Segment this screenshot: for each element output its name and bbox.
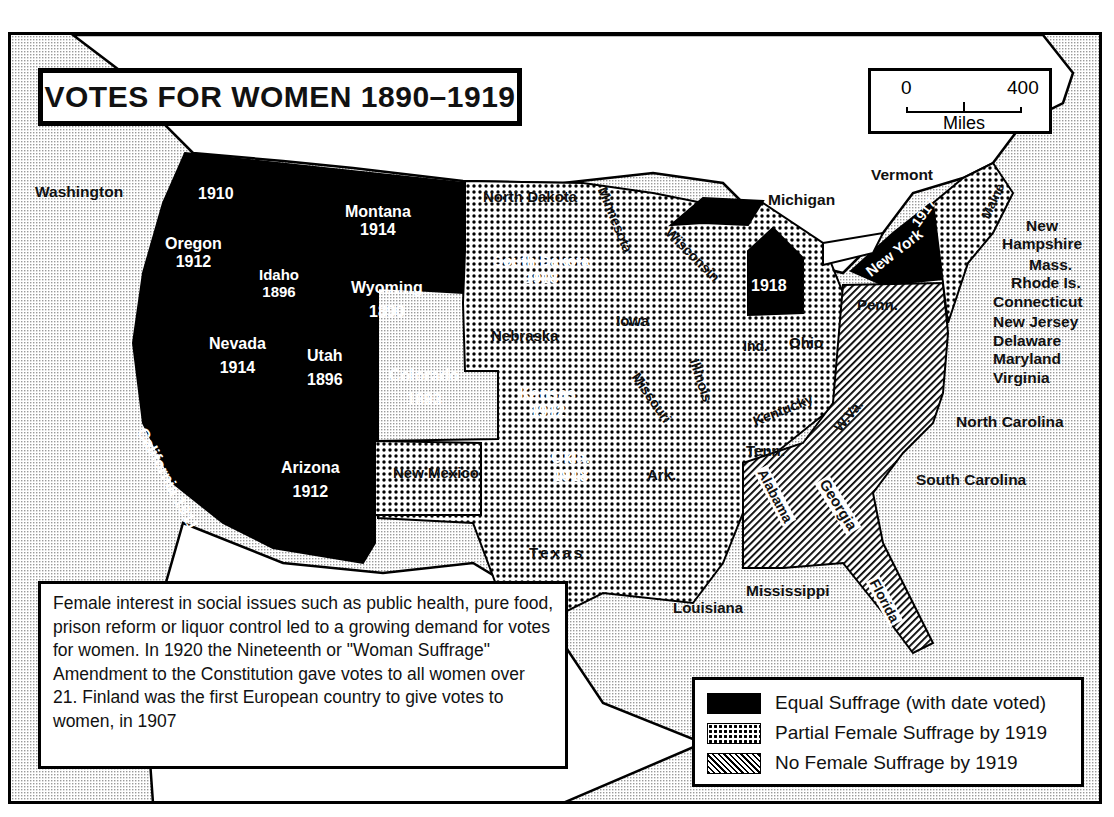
label-mississippi: Mississippi [746, 582, 830, 600]
label-colorado: Colorado1893 [389, 367, 459, 408]
label-virginia: Virginia [993, 369, 1050, 387]
label-massachusetts: Mass. [1029, 256, 1072, 274]
label-texas: Texas [529, 545, 585, 562]
scale-start: 0 [901, 77, 912, 99]
label-north-carolina: North Carolina [956, 413, 1064, 431]
label-arkansas: Ark. [647, 467, 676, 484]
label-wyoming: Wyoming1890 [351, 279, 423, 320]
solid-black-swatch-icon [707, 693, 761, 714]
legend-label: Equal Suffrage (with date voted) [775, 692, 1046, 714]
label-kansas: Kansas1912 [519, 385, 576, 420]
label-new-jersey: New Jersey [993, 313, 1078, 331]
label-ohio: Ohio [789, 335, 823, 352]
label-rhode-island: Rhode Is. [1011, 274, 1081, 292]
label-michigan-year: 1918 [751, 277, 787, 295]
label-nebraska: Nebraska [491, 328, 559, 345]
label-tennessee: Tenn. [746, 443, 785, 460]
label-washington: Washington [35, 183, 123, 201]
scale-bar: 0 400 Miles [868, 68, 1052, 134]
dotted-swatch-icon [707, 723, 761, 744]
label-louisiana: Louisiana [673, 600, 743, 617]
label-north-dakota: North Dakota [483, 189, 577, 206]
label-connecticut: Connecticut [993, 293, 1083, 311]
scale-units: Miles [943, 113, 985, 134]
legend-label: No Female Suffrage by 1919 [775, 752, 1018, 774]
label-idaho: Idaho1896 [259, 267, 299, 300]
label-nevada: Nevada1914 [209, 335, 266, 376]
label-vermont: Vermont [871, 166, 933, 184]
label-south-dakota: South Dakota1918 [493, 253, 590, 286]
legend-item-none: No Female Suffrage by 1919 [707, 748, 1069, 778]
map-title: VOTES FOR WOMEN 1890–1919 [38, 68, 522, 126]
legend-label: Partial Female Suffrage by 1919 [775, 722, 1047, 744]
legend-item-partial: Partial Female Suffrage by 1919 [707, 718, 1069, 748]
label-indiana: Ind. [743, 339, 768, 354]
legend: Equal Suffrage (with date voted) Partial… [692, 677, 1084, 787]
legend-item-equal: Equal Suffrage (with date voted) [707, 688, 1069, 718]
label-south-carolina: South Carolina [916, 471, 1026, 489]
label-new-hampshire: New Hampshire [1001, 217, 1083, 253]
label-maryland: Maryland [993, 350, 1061, 368]
scale-midpoint-tick [963, 102, 965, 111]
label-delaware: Delaware [993, 332, 1061, 350]
label-utah: Utah1896 [307, 347, 343, 388]
historical-note: Female interest in social issues such as… [38, 581, 568, 769]
label-pennsylvania: Penn. [857, 297, 898, 314]
label-michigan: Michigan [768, 191, 835, 209]
label-arizona: Arizona1912 [281, 459, 340, 500]
label-montana: Montana1914 [345, 203, 411, 238]
label-oregon: Oregon1912 [165, 235, 222, 270]
scale-end: 400 [1007, 77, 1039, 99]
hatched-swatch-icon [707, 753, 761, 774]
label-new-mexico: New Mexico [393, 465, 453, 482]
label-oklahoma: Okla.1918 [551, 449, 590, 484]
label-washington-year: 1910 [198, 185, 234, 203]
label-iowa: Iowa [616, 313, 649, 330]
